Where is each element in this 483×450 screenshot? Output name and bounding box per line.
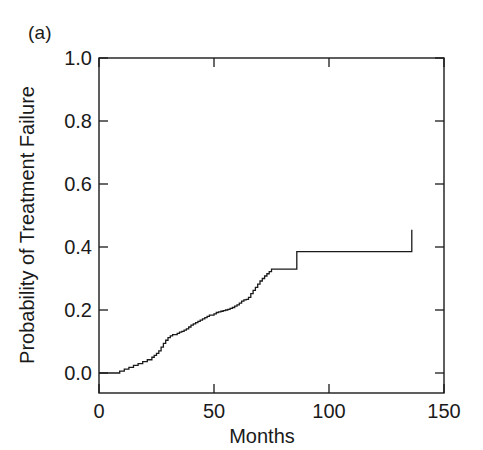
x-axis-ticks-top — [99, 58, 444, 67]
survival-curve — [99, 230, 412, 373]
x-tick-label-50: 50 — [203, 400, 225, 422]
x-tick-label-0: 0 — [93, 400, 104, 422]
y-tick-label-1-0: 1.0 — [64, 47, 92, 69]
x-axis-title: Months — [229, 425, 295, 447]
x-tick-labels: 0 50 100 150 — [93, 400, 460, 422]
plot-frame — [99, 58, 444, 393]
y-axis-ticks-right — [435, 58, 444, 373]
x-axis-ticks — [99, 384, 444, 393]
y-axis-title: Probability of Treatment Failure — [16, 86, 38, 364]
figure-panel: (a) — [0, 0, 483, 450]
y-tick-label-0-8: 0.8 — [64, 110, 92, 132]
y-tick-label-0-0: 0.0 — [64, 362, 92, 384]
x-tick-label-150: 150 — [427, 400, 460, 422]
y-tick-label-0-2: 0.2 — [64, 299, 92, 321]
y-axis-ticks — [99, 58, 108, 373]
y-tick-label-0-6: 0.6 — [64, 173, 92, 195]
y-tick-label-0-4: 0.4 — [64, 236, 92, 258]
survival-plot: 1.0 0.8 0.6 0.4 0.2 0.0 0 50 100 150 Mon… — [0, 0, 483, 450]
x-tick-label-100: 100 — [312, 400, 345, 422]
y-tick-labels: 1.0 0.8 0.6 0.4 0.2 0.0 — [64, 47, 92, 384]
